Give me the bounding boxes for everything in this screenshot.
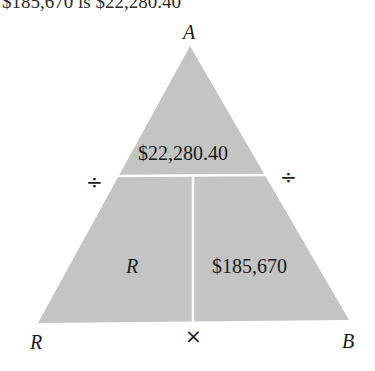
vertex-label-a: A xyxy=(183,22,195,42)
vertex-label-b: B xyxy=(342,331,354,351)
horizontal-divider xyxy=(112,175,270,176)
multiply-icon: × xyxy=(185,326,202,346)
percentage-triangle xyxy=(0,0,375,371)
divide-left-icon: ÷ xyxy=(86,172,103,192)
bottom-left-section-value: R xyxy=(126,256,138,276)
bottom-right-section-value: $185,670 xyxy=(212,256,287,276)
vertex-label-r: R xyxy=(30,332,42,352)
top-section-value: $22,280.40 xyxy=(138,143,228,163)
divide-right-icon: ÷ xyxy=(280,167,297,187)
